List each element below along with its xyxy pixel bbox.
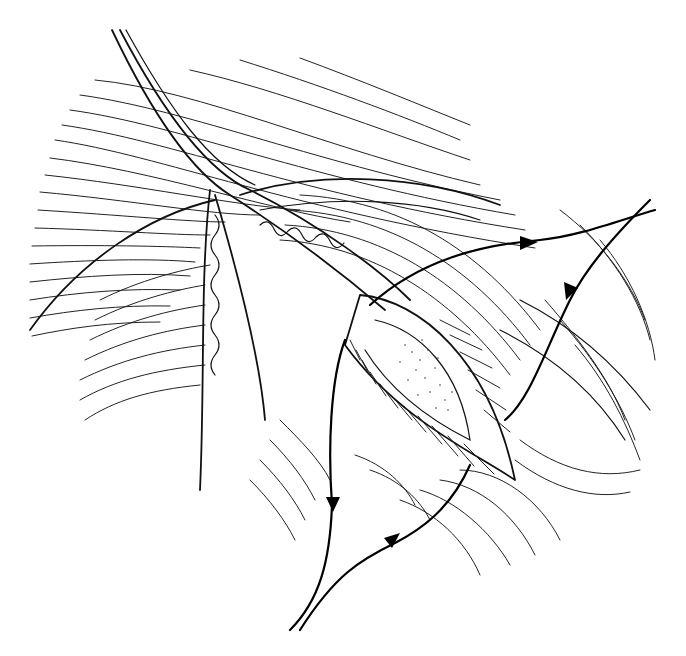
- fascia-outline-left: [30, 200, 215, 330]
- right-fiber-hatching: [515, 210, 655, 495]
- left-suture: [290, 340, 345, 630]
- incision-outline: [345, 295, 515, 480]
- surgical-illustration: [0, 0, 686, 656]
- sutures: [290, 200, 655, 630]
- lower-suture: [300, 465, 470, 630]
- upper-suture: [370, 210, 655, 305]
- stippled-tissue: [399, 339, 453, 411]
- wound-surround-hatching: [80, 195, 560, 575]
- left-flap-wavy-edge: [211, 215, 219, 375]
- left-suture-arrow-icon: [326, 497, 340, 512]
- right-boundary-curve-2: [500, 330, 625, 440]
- illustration-canvas: [0, 0, 686, 656]
- right-boundary-curve: [520, 300, 650, 410]
- upper-fiber-hatching: [30, 58, 535, 336]
- instrument: [112, 30, 410, 310]
- incision-hatching: [350, 320, 510, 474]
- incision: [345, 295, 515, 480]
